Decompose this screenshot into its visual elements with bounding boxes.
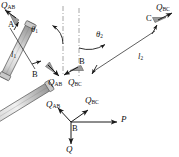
fbd-force-qab-arrow [58,108,71,122]
label-force-qab-top: QAB [1,1,15,11]
label-fbd-force-q: Q [66,145,73,154]
label-length-l1: l1 [11,50,16,59]
label-node-b-left: B [32,70,38,79]
label-force-qab-bottom: QAB [48,78,62,88]
node-b-left-tick [32,61,41,64]
force-qbc-top-arrow [158,13,172,20]
label-fbd-force-qbc: QBC [85,96,99,106]
angle-theta2-arc [79,45,105,50]
label-fbd-joint-b: B [72,124,78,133]
force-qab-top-arrow [5,10,16,18]
length-l2-dimension-line [94,31,155,71]
bar-bc-end-c-tip [153,18,167,23]
label-node-a: A [8,20,14,29]
label-length-l2: l2 [138,52,143,61]
label-force-qbc-bottom: QBC [68,78,82,88]
force-qbc-bottom-arrow [64,67,78,75]
label-fbd-force-qab: QAB [46,100,60,110]
label-angle-theta1: θ1 [31,25,38,34]
label-node-b-right: B [79,57,85,66]
label-node-c: C [146,14,152,23]
label-angle-theta2: θ2 [96,30,103,39]
angle-theta1-arc [53,26,64,45]
figure-canvas: QAB A θ1 l1 B QAB QBC C θ2 l2 B QBC QAB … [0,0,179,157]
force-qab-bottom-arrow [48,65,59,76]
label-force-qbc-top: QBC [156,3,170,13]
joint-b-free-body-group [58,108,117,144]
figure-vector-layer [0,0,179,157]
label-fbd-force-p: P [121,115,127,124]
fbd-force-qbc-arrow [71,110,88,122]
